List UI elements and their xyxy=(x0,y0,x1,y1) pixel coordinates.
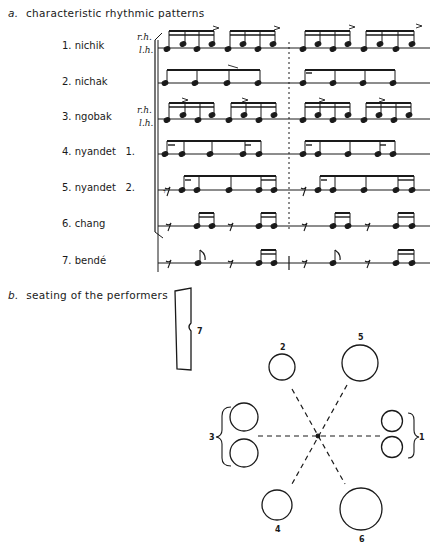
svg-text:2: 2 xyxy=(280,343,286,352)
system-bracket xyxy=(155,33,163,272)
performer-3-drum-b xyxy=(230,439,258,467)
staff-lines xyxy=(158,48,430,263)
rhythm-nyandet-1 xyxy=(161,141,396,157)
svg-text:3: 3 xyxy=(209,433,215,442)
performer-6-drum xyxy=(340,488,382,530)
rhythm-chang xyxy=(166,213,416,231)
rhythm-ngobak xyxy=(163,98,412,123)
performer-2-drum xyxy=(269,354,295,380)
performer-3-drum-a xyxy=(230,403,258,431)
seating-diagram xyxy=(175,288,419,530)
seating-labels: 7 2 5 3 1 4 6 xyxy=(197,327,425,544)
svg-text:5: 5 xyxy=(358,333,364,342)
svg-text:1: 1 xyxy=(419,433,425,442)
performer-1-drum-b xyxy=(382,437,403,458)
svg-text:𝄾: 𝄾 xyxy=(163,185,166,198)
performer-4-drum xyxy=(262,490,292,520)
performer-1-drum-a xyxy=(382,411,403,432)
brace-performer-1 xyxy=(408,413,419,458)
svg-text:6: 6 xyxy=(359,535,365,544)
rhythm-bende xyxy=(166,250,416,268)
performer-5-drum xyxy=(342,345,378,381)
notation-and-seating-diagram: 𝄾 xyxy=(0,0,437,552)
svg-text:4: 4 xyxy=(275,525,281,534)
bench-7 xyxy=(175,288,191,370)
brace-performer-3 xyxy=(216,407,231,466)
svg-text:7: 7 xyxy=(197,327,203,336)
